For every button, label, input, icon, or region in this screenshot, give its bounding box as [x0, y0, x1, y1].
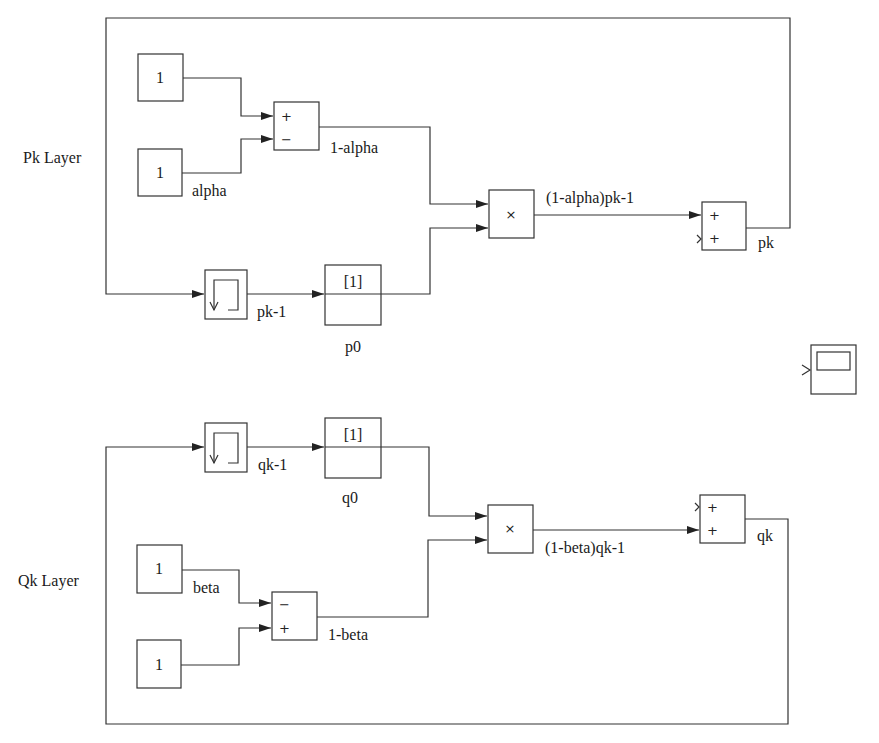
qk-product-block[interactable]: × — [488, 505, 533, 553]
unconnected-port-icon — [695, 503, 699, 511]
block-diagram-canvas: Pk Layer 1 1 alpha + − 1-alpha pk-1 [1] … — [0, 0, 879, 743]
qk-sum-sign-1: − — [279, 597, 290, 612]
qk-sum-sign-2: + — [279, 621, 290, 636]
pk-const-alpha-value: 1 — [156, 164, 164, 181]
qk-const-one-block[interactable]: 1 — [137, 640, 181, 688]
qk-const-one-value: 1 — [155, 656, 163, 673]
pk-delay-output-label: pk-1 — [257, 303, 286, 321]
qk-delay-output-label: qk-1 — [258, 456, 287, 474]
qk-sum-output-label: 1-beta — [328, 626, 368, 643]
scope-block[interactable] — [802, 345, 856, 394]
qk-layer-title: Qk Layer — [18, 572, 80, 590]
qk-initial-condition-block[interactable]: [1] — [325, 418, 381, 478]
pk-ic-value: [1] — [344, 273, 363, 290]
pk-product-output-label: (1-alpha)pk-1 — [546, 189, 634, 207]
qk-beta-label: beta — [193, 579, 220, 596]
pk-final-sum-block[interactable]: + + — [697, 202, 746, 250]
pk-product-block[interactable]: × — [489, 190, 534, 238]
pk-feedback-wire — [106, 18, 790, 294]
pk-alpha-label: alpha — [192, 182, 227, 200]
pk-const-alpha-block[interactable]: 1 — [138, 149, 182, 196]
qk-product-symbol: × — [505, 521, 516, 536]
qk-unit-delay-block[interactable] — [205, 423, 247, 472]
unconnected-port-icon — [697, 235, 701, 243]
qk-final-sum-sign-1: + — [707, 500, 718, 515]
qk-one-minus-beta-wire — [317, 540, 487, 617]
qk-const-beta-block[interactable]: 1 — [137, 545, 182, 593]
pk-const-one-wire — [183, 78, 273, 116]
pk-sum-sign-2: − — [281, 132, 292, 147]
pk-ic-label: p0 — [345, 338, 361, 356]
scope-input-port-icon — [802, 365, 810, 375]
qk-sum-block[interactable]: − + — [272, 592, 317, 640]
qk-final-sum-block[interactable]: + + — [695, 495, 745, 543]
qk-final-output-label: qk — [757, 527, 773, 545]
qk-product-output-label: (1-beta)qk-1 — [545, 539, 625, 557]
pk-sum-output-label: 1-alpha — [330, 139, 378, 157]
pk-unit-delay-block[interactable] — [205, 270, 247, 319]
pk-final-sum-sign-1: + — [709, 208, 720, 223]
pk-const-one-block[interactable]: 1 — [138, 54, 183, 101]
qk-const-beta-value: 1 — [155, 560, 163, 577]
pk-alpha-wire — [182, 139, 273, 173]
pk-sum-block[interactable]: + − — [274, 102, 319, 150]
pk-sum-sign-1: + — [281, 109, 292, 124]
pk-product-symbol: × — [506, 207, 517, 222]
pk-initial-condition-block[interactable]: [1] — [325, 265, 381, 325]
pk-final-sum-sign-2: + — [709, 231, 720, 246]
qk-final-sum-sign-2: + — [707, 523, 718, 538]
qk-ic-label: q0 — [342, 489, 358, 507]
pk-final-output-label: pk — [758, 234, 774, 252]
qk-const-one-wire — [181, 628, 271, 665]
pk-const-one-value: 1 — [156, 69, 164, 86]
qk-ic-value: [1] — [344, 426, 363, 443]
pk-layer-title: Pk Layer — [23, 149, 82, 167]
